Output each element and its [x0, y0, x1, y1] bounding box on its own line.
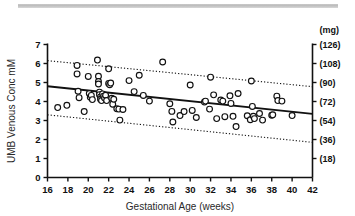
- secondary-y-tick-label: (36): [320, 135, 336, 145]
- y-tick-label: 6: [35, 58, 40, 69]
- secondary-y-axis-ticks: (18)(36)(54)(72)(90)(108)(126): [313, 40, 341, 164]
- scatter-chart: 01234567 1618202224262830323436384042 (1…: [0, 0, 355, 216]
- x-tick-label: 24: [124, 184, 135, 195]
- data-point: [131, 89, 137, 95]
- data-point: [76, 95, 82, 101]
- secondary-y-tick-label: (126): [320, 40, 341, 50]
- data-point: [189, 108, 195, 114]
- data-point: [169, 108, 175, 114]
- data-point: [208, 74, 214, 80]
- data-point: [230, 113, 236, 119]
- x-axis-title: Gestational Age (weeks): [126, 201, 234, 212]
- y-tick-label: 4: [35, 96, 41, 107]
- data-point: [235, 91, 241, 97]
- data-point: [279, 98, 285, 104]
- data-point: [228, 101, 234, 107]
- x-tick-label: 36: [246, 184, 257, 195]
- secondary-y-axis-unit-label: (mg): [320, 25, 340, 35]
- x-tick-label: 26: [144, 184, 155, 195]
- x-tick-label: 22: [103, 184, 114, 195]
- y-tick-label: 7: [35, 39, 40, 50]
- y-tick-label: 2: [35, 134, 40, 145]
- regression-line: [48, 86, 313, 114]
- data-point: [111, 96, 117, 102]
- data-point: [220, 98, 226, 104]
- x-tick-label: 40: [287, 184, 298, 195]
- data-points: [55, 57, 295, 129]
- data-point: [126, 78, 132, 84]
- data-point: [106, 66, 112, 72]
- data-point: [74, 71, 80, 77]
- data-point: [257, 111, 263, 117]
- x-tick-label: 32: [205, 184, 216, 195]
- data-point: [64, 102, 70, 108]
- data-point: [89, 97, 95, 103]
- data-point: [75, 88, 81, 94]
- x-tick-label: 20: [83, 184, 94, 195]
- data-point: [108, 80, 114, 86]
- secondary-y-tick-label: (18): [320, 154, 336, 164]
- y-tick-label: 3: [35, 115, 40, 126]
- data-point: [140, 93, 146, 99]
- data-point: [207, 106, 213, 112]
- data-point: [203, 98, 209, 104]
- data-point: [187, 82, 193, 88]
- data-point: [81, 109, 87, 115]
- data-point: [252, 116, 258, 122]
- data-point: [181, 109, 187, 115]
- data-point: [233, 124, 239, 130]
- data-point: [248, 78, 254, 84]
- x-tick-label: 42: [307, 184, 318, 195]
- y-tick-label: 5: [35, 77, 41, 88]
- data-point: [117, 117, 123, 123]
- x-axis-ticks: 1618202224262830323436384042: [42, 178, 318, 195]
- data-point: [289, 113, 295, 119]
- data-point: [167, 101, 173, 107]
- x-tick-label: 28: [165, 184, 176, 195]
- data-point: [170, 119, 176, 125]
- x-tick-label: 34: [226, 184, 237, 195]
- data-point: [85, 74, 91, 80]
- data-point: [260, 117, 266, 123]
- data-point: [211, 92, 217, 98]
- secondary-y-tick-label: (72): [320, 97, 336, 107]
- y-tick-label: 1: [35, 153, 41, 164]
- secondary-y-tick-label: (90): [320, 78, 336, 88]
- y-axis-ticks: 01234567: [35, 39, 47, 183]
- data-point: [95, 57, 101, 63]
- x-tick-label: 38: [266, 184, 277, 195]
- data-point: [249, 104, 255, 110]
- data-point: [193, 115, 199, 121]
- data-point: [55, 105, 61, 111]
- data-point: [74, 63, 80, 69]
- data-point: [96, 81, 102, 87]
- x-tick-label: 18: [63, 184, 74, 195]
- y-axis-title: UMB Venous Conc mM: [6, 59, 17, 163]
- figure-container: 01234567 1618202224262830323436384042 (1…: [0, 0, 355, 216]
- y-tick-label: 0: [35, 172, 40, 183]
- data-point: [120, 107, 126, 113]
- data-point: [147, 98, 153, 104]
- top-divider-rule: [18, 4, 338, 8]
- data-point: [270, 112, 276, 118]
- data-point: [214, 116, 220, 122]
- x-tick-label: 30: [185, 184, 196, 195]
- data-point: [222, 114, 228, 120]
- data-point: [227, 93, 233, 99]
- data-point: [136, 72, 142, 78]
- secondary-y-tick-label: (108): [320, 59, 341, 69]
- x-tick-label: 16: [42, 184, 53, 195]
- secondary-y-tick-label: (54): [320, 116, 336, 126]
- data-point: [160, 59, 166, 65]
